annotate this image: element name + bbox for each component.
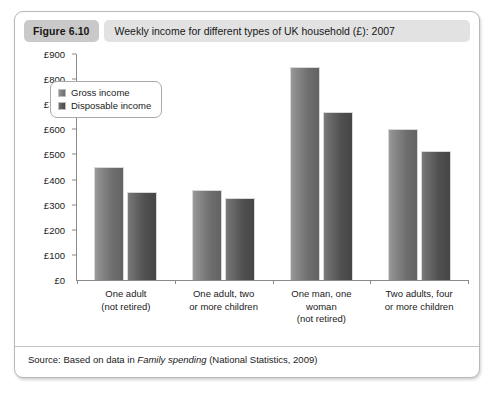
y-axis-tick-label: £100 [44, 249, 65, 260]
legend-item: Gross income [58, 86, 151, 99]
footer-divider [15, 346, 479, 347]
bar-disposable-income [421, 151, 451, 280]
chart-legend: Gross incomeDisposable income [50, 81, 162, 118]
legend-label: Disposable income [71, 100, 151, 111]
bar-disposable-income [127, 192, 157, 280]
y-axis-tick-label: £200 [44, 224, 65, 235]
x-axis-category-label-line: (not retired) [79, 301, 173, 314]
bar-gross-income [290, 67, 320, 280]
x-axis-tick-mark [370, 280, 371, 284]
x-axis-tick-mark [468, 280, 469, 284]
x-axis-category-label: One adult, twoor more children [175, 288, 273, 326]
x-axis-category-label-line: woman [275, 301, 369, 314]
x-axis-tick-mark [77, 280, 78, 284]
x-axis-category-label-line: (not retired) [275, 313, 369, 326]
legend-item: Disposable income [58, 99, 151, 112]
x-axis-category-label-line: or more children [177, 301, 271, 314]
x-axis-category-label: One man, onewoman(not retired) [273, 288, 371, 326]
x-axis-tick-mark [273, 280, 274, 284]
y-axis-tick-label: £300 [44, 199, 65, 210]
x-axis-tick-mark [175, 280, 176, 284]
y-axis-tick-label: £600 [44, 124, 65, 135]
y-axis-tick-label: £0 [54, 275, 65, 286]
source-suffix: (National Statistics, 2009) [207, 354, 318, 365]
x-axis-category-label-line: Two adults, four [372, 288, 466, 301]
x-axis-category-label: Two adults, fouror more children [370, 288, 468, 326]
x-axis-category-label-line: One adult [79, 288, 173, 301]
figure-number-badge: Figure 6.10 [24, 20, 99, 42]
legend-label: Gross income [71, 87, 130, 98]
y-axis-tick-label: £900 [44, 49, 65, 60]
figure-header: Figure 6.10 Weekly income for different … [24, 20, 470, 42]
source-note: Source: Based on data in Family spending… [28, 354, 466, 365]
chart-plot-area: £900£800£700£600£500£400£300£200£100£0 O… [24, 48, 472, 340]
y-axis-tick-label: £500 [44, 149, 65, 160]
source-prefix: Source: Based on data in [28, 354, 137, 365]
figure-title: Weekly income for different types of UK … [104, 20, 470, 42]
x-axis-category-label-line: One adult, two [177, 288, 271, 301]
legend-swatch-icon [58, 89, 66, 97]
legend-swatch-icon [58, 102, 66, 110]
bar-disposable-income [225, 198, 255, 280]
bar-gross-income [192, 190, 222, 280]
source-publication-title: Family spending [137, 354, 206, 365]
x-axis-labels: One adult(not retired)One adult, twoor m… [77, 288, 468, 326]
x-axis-category-label-line: or more children [372, 301, 466, 314]
x-axis-category-label-line: One man, one [275, 288, 369, 301]
bar-group [370, 54, 468, 280]
bar-group [175, 54, 273, 280]
bar-disposable-income [323, 112, 353, 280]
y-axis-tick-label: £400 [44, 174, 65, 185]
bar-gross-income [94, 167, 124, 280]
bar-gross-income [388, 129, 418, 280]
x-axis-category-label: One adult(not retired) [77, 288, 175, 326]
bar-group [273, 54, 371, 280]
figure-card: Figure 6.10 Weekly income for different … [14, 11, 480, 378]
